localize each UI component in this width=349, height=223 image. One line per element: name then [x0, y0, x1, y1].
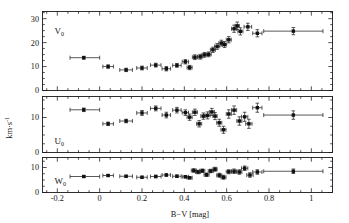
data-marker [232, 170, 235, 173]
data-marker [82, 175, 85, 178]
data-marker [292, 113, 295, 116]
data-marker [154, 107, 157, 110]
data-point [241, 166, 247, 171]
data-point [246, 119, 252, 128]
data-point [103, 174, 114, 178]
data-point [137, 111, 148, 116]
data-marker [223, 43, 226, 46]
data-marker [124, 68, 127, 71]
data-point [264, 169, 323, 174]
data-marker [193, 56, 196, 59]
data-marker [197, 122, 200, 125]
data-point [137, 66, 148, 70]
data-point [182, 60, 188, 64]
data-marker [202, 114, 205, 117]
data-point [200, 169, 205, 173]
x-tick-label: 0.8 [264, 194, 274, 203]
x-axis-title: B−V [mag] [171, 210, 210, 219]
data-marker [256, 170, 259, 173]
data-point [103, 65, 114, 69]
data-point [197, 121, 202, 127]
data-marker [165, 173, 168, 176]
data-marker [243, 167, 246, 170]
x-tick-group [47, 12, 333, 91]
data-marker [213, 168, 216, 171]
data-point [120, 68, 133, 72]
data-marker [256, 32, 259, 35]
data-marker [205, 173, 208, 176]
data-point [187, 176, 192, 180]
data-marker [210, 110, 213, 113]
data-marker [165, 67, 168, 70]
panel-v: 0102030V0 [31, 12, 333, 96]
data-marker [175, 175, 178, 178]
data-marker [184, 60, 187, 63]
data-point [192, 109, 197, 115]
data-marker [222, 176, 225, 179]
data-marker [227, 38, 230, 41]
data-point [182, 175, 188, 179]
data-marker [209, 169, 212, 172]
data-point [150, 63, 161, 67]
data-point [70, 108, 100, 112]
data-marker [238, 170, 241, 173]
data-marker [215, 45, 218, 48]
y-tick-label: 10 [31, 113, 39, 122]
data-marker [188, 66, 191, 69]
data-marker [292, 170, 295, 173]
data-marker [246, 25, 249, 28]
panel-frame [43, 158, 333, 193]
data-marker [203, 53, 206, 56]
data-marker [196, 170, 199, 173]
data-marker [124, 119, 127, 122]
data-marker [175, 64, 178, 67]
x-tick-label: 0.6 [222, 194, 232, 203]
figure-root: km·s-1 B−V [mag] 0102030V0010U0010-0.200… [0, 0, 349, 223]
data-point [253, 30, 262, 37]
data-point [221, 126, 226, 133]
y-tick-label: 10 [31, 163, 39, 172]
data-point [187, 114, 192, 120]
data-point [232, 169, 237, 174]
data-marker [140, 66, 143, 69]
panel-w: 010-0.200.20.40.60.81W0 [31, 158, 333, 204]
data-marker [106, 122, 109, 125]
data-point [247, 173, 253, 178]
data-points-group [70, 22, 323, 72]
data-marker [154, 63, 157, 66]
data-points-group [70, 103, 323, 133]
x-tick-group [47, 97, 333, 153]
data-marker [201, 169, 204, 172]
data-marker [238, 119, 241, 122]
data-marker [236, 24, 239, 27]
data-marker [82, 56, 85, 59]
panel-label-v: V0 [55, 26, 65, 37]
data-point [213, 167, 217, 171]
y-tick-label: 0 [35, 86, 39, 95]
data-marker [247, 122, 250, 125]
x-axis-title-group: B−V [mag] [171, 210, 210, 219]
y-tick-group [43, 13, 333, 91]
data-point [120, 119, 133, 123]
data-marker [154, 175, 157, 178]
data-point [217, 119, 222, 126]
data-marker [193, 111, 196, 114]
x-tick-group [47, 158, 333, 193]
data-marker [140, 111, 143, 114]
data-marker [218, 121, 221, 124]
y-axis-title: km·s-1 [4, 117, 14, 139]
data-point [232, 106, 237, 114]
data-point [70, 175, 100, 179]
data-point [150, 106, 161, 111]
panels-layer: 0102030V0010U0010-0.200.20.40.60.81W0 [31, 12, 333, 204]
panel-label-u: U0 [55, 136, 65, 147]
data-point [192, 55, 197, 60]
data-point [150, 175, 161, 179]
data-point [173, 107, 181, 113]
data-point [226, 170, 231, 174]
data-marker [192, 169, 195, 172]
panel-u: 010U0 [31, 97, 333, 158]
y-tick-group [43, 100, 333, 153]
data-point [137, 175, 148, 179]
data-point [253, 170, 262, 175]
